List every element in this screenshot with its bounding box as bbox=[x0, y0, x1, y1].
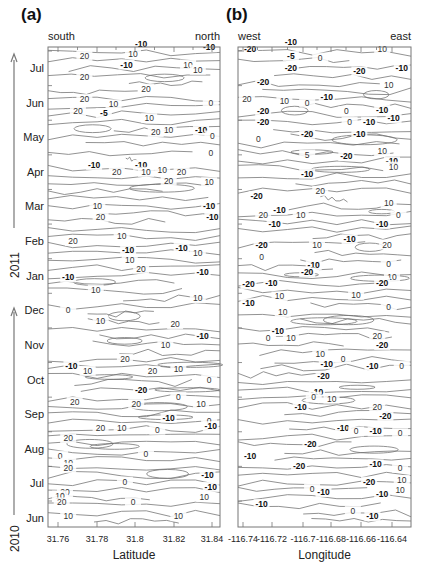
contour-line bbox=[48, 228, 220, 233]
contour-label: -10 bbox=[387, 113, 400, 123]
contour-label: -20 bbox=[257, 117, 270, 127]
contour-label: -10 bbox=[370, 426, 383, 436]
contour-line bbox=[299, 103, 411, 108]
contour-label: 20 bbox=[132, 399, 142, 409]
contour-label: -10 bbox=[295, 402, 308, 412]
month-label: Jan bbox=[26, 270, 44, 282]
contour-label: 0 bbox=[399, 361, 404, 371]
contour-line bbox=[273, 130, 411, 133]
contour-loop bbox=[74, 125, 111, 133]
contour-label: 20 bbox=[136, 264, 146, 274]
contour-label: 10 bbox=[377, 146, 387, 156]
contour-label: -10 bbox=[65, 361, 78, 371]
contour-line bbox=[238, 150, 394, 157]
contour-line bbox=[48, 97, 220, 102]
year-label-2010: 2010 bbox=[8, 525, 22, 552]
contour-label: 10 bbox=[327, 394, 337, 404]
contour-line bbox=[48, 419, 220, 423]
x-axis-title: Longitude bbox=[298, 548, 351, 562]
contour-label: -10 bbox=[396, 63, 409, 73]
contour-label: 10 bbox=[144, 113, 154, 123]
x-tick-label: -116.74 bbox=[228, 534, 258, 544]
x-tick-label: 31.84 bbox=[201, 534, 224, 544]
contour-label: -10 bbox=[366, 511, 379, 521]
contour-label: 10 bbox=[193, 248, 203, 258]
contour-labels: -10-20-5010-20-20-10-2010-1020100-200-10… bbox=[239, 37, 410, 521]
contour-label: 10 bbox=[312, 240, 322, 250]
contour-label: -20 bbox=[257, 106, 270, 116]
x-tick-label: 31.82 bbox=[163, 534, 186, 544]
contour-line bbox=[238, 465, 411, 470]
contour-label: 10 bbox=[397, 475, 407, 485]
contour-label: 10 bbox=[280, 96, 290, 106]
contour-label: 20 bbox=[258, 210, 268, 220]
contour-loop bbox=[147, 469, 189, 478]
contour-label: 10 bbox=[117, 231, 127, 241]
contour-label: -10 bbox=[265, 278, 278, 288]
contour-line bbox=[320, 195, 347, 202]
contour-label: -20 bbox=[301, 267, 314, 277]
contour-label: 10 bbox=[204, 177, 214, 187]
contour-label: -10 bbox=[175, 243, 188, 253]
contour-label: 0 bbox=[256, 134, 261, 144]
contour-label: -10 bbox=[88, 160, 101, 170]
x-tick-label: -116.66 bbox=[346, 534, 376, 544]
contour-line bbox=[86, 142, 220, 146]
contour-loop bbox=[90, 444, 139, 450]
contour-label: -10 bbox=[201, 470, 214, 480]
contour-label: -10 bbox=[197, 267, 210, 277]
x-tick-label: -116.64 bbox=[377, 534, 407, 544]
contour-label: 10 bbox=[161, 340, 171, 350]
contour-label: 0 bbox=[310, 484, 315, 494]
contour-label: 0 bbox=[207, 375, 212, 385]
contour-label: 10 bbox=[296, 210, 306, 220]
contour-label: 10 bbox=[200, 492, 210, 502]
contour-label: 10 bbox=[384, 198, 394, 208]
contour-label: -20 bbox=[376, 278, 389, 288]
contour-label: 0 bbox=[396, 210, 401, 220]
contour-label: -10 bbox=[273, 205, 286, 215]
contour-label: 10 bbox=[351, 290, 361, 300]
contour-label: 10 bbox=[141, 167, 151, 177]
month-label: Nov bbox=[24, 339, 44, 351]
contour-label: 0 bbox=[210, 131, 215, 141]
contour-label: -20 bbox=[379, 411, 392, 421]
contour-label: 20 bbox=[73, 106, 83, 116]
contour-label: -5 bbox=[100, 108, 108, 118]
contour-line bbox=[48, 449, 220, 455]
contour-label: 0 bbox=[354, 426, 359, 436]
contour-label: 10 bbox=[125, 255, 135, 265]
contour-label: 10 bbox=[109, 99, 119, 109]
contour-label: -20 bbox=[285, 63, 298, 73]
contour-line bbox=[99, 211, 220, 216]
contour-label: 0 bbox=[341, 354, 346, 364]
contour-label: -20 bbox=[293, 461, 306, 471]
contour-label: 20 bbox=[120, 354, 130, 364]
contour-line bbox=[48, 480, 220, 486]
contour-label: 10 bbox=[316, 349, 326, 359]
year-axis: JunJulAugSepOctNovDecJanFebMarAprMayJunJ… bbox=[8, 54, 44, 552]
plot-frame bbox=[48, 47, 220, 527]
contour-label: 10 bbox=[128, 49, 138, 59]
month-label: Jul bbox=[30, 477, 44, 489]
contour-label: -20 bbox=[301, 129, 314, 139]
year-label-2011: 2011 bbox=[8, 252, 22, 278]
contour-line bbox=[48, 288, 182, 294]
contour-line bbox=[48, 119, 220, 125]
contour-label: 0 bbox=[131, 497, 136, 507]
x-tick-label: 31.76 bbox=[47, 534, 70, 544]
contour-label: -10 bbox=[242, 298, 255, 308]
contour-label: -10 bbox=[197, 331, 210, 341]
contour-label: 10 bbox=[286, 333, 296, 343]
contour-label: 10 bbox=[91, 285, 101, 295]
contour-line bbox=[48, 328, 220, 332]
contour-label: 20 bbox=[96, 423, 106, 433]
contour-label: 20 bbox=[96, 212, 106, 222]
contour-label: -10 bbox=[255, 499, 268, 509]
contour-line bbox=[48, 176, 220, 180]
contour-label: 10 bbox=[196, 399, 206, 409]
contour-loop bbox=[155, 388, 220, 392]
contour-label: 20 bbox=[164, 176, 174, 186]
contour-label: -10 bbox=[366, 361, 379, 371]
contour-line bbox=[94, 519, 179, 524]
